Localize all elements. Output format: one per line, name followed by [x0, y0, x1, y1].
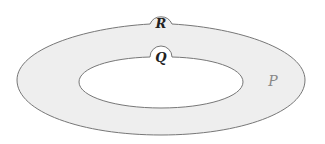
label-r: R	[155, 16, 167, 31]
ring-diagram: R Q P	[0, 0, 325, 144]
label-p: P	[267, 73, 278, 89]
label-q: Q	[155, 50, 167, 65]
